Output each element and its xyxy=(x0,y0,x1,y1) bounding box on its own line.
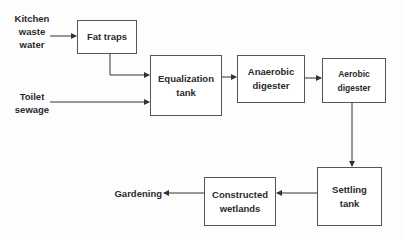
label-line: water xyxy=(14,38,50,51)
input-kitchen-waste-water: Kitchen waste water xyxy=(14,12,50,51)
label-line: Toilet xyxy=(14,90,50,103)
label-line: Aerobic xyxy=(337,67,370,81)
label-line: Constructed xyxy=(212,188,268,202)
node-constructed-wetlands: Constructed wetlands xyxy=(204,177,276,226)
node-equalization-tank: Equalization tank xyxy=(150,55,222,116)
arrow-fat-traps-to-equalization xyxy=(110,54,149,75)
label-line: waste xyxy=(14,25,50,38)
label-line: tank xyxy=(332,197,367,211)
node-fat-traps: Fat traps xyxy=(77,20,137,54)
label-line: Anaerobic xyxy=(248,65,294,79)
label-line: Equalization xyxy=(158,72,214,86)
label-line: Settling xyxy=(332,183,367,197)
label-line: sewage xyxy=(14,103,50,116)
label-line: wetlands xyxy=(212,202,268,216)
node-label: Fat traps xyxy=(87,30,127,44)
node-anaerobic-digester: Anaerobic digester xyxy=(237,55,305,103)
label-line: tank xyxy=(158,86,214,100)
output-label: Gardening xyxy=(114,188,162,199)
node-settling-tank: Settling tank xyxy=(317,167,382,226)
input-toilet-sewage: Toilet sewage xyxy=(14,90,50,116)
label-line: Kitchen xyxy=(14,12,50,25)
label-line: digester xyxy=(337,81,370,95)
label-line: digester xyxy=(248,79,294,93)
node-aerobic-digester: Aerobic digester xyxy=(322,58,386,103)
output-gardening: Gardening xyxy=(110,187,162,200)
